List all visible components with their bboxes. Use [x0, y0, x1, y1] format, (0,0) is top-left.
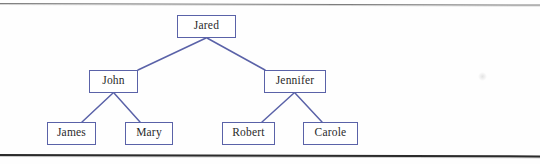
tree-edge-john-to-mary	[114, 93, 140, 122]
tree-node-robert[interactable]: Robert	[222, 122, 275, 145]
tree-node-label: John	[102, 75, 125, 88]
scan-speck	[478, 72, 487, 81]
tree-node-label: Mary	[136, 127, 162, 140]
tree-edge-jared-to-jennifer	[207, 38, 265, 70]
tree-node-carole[interactable]: Carole	[303, 122, 358, 145]
tree-node-label: Robert	[232, 127, 265, 140]
figure-canvas: JaredJohnJenniferJamesMaryRobertCarole	[0, 0, 540, 164]
tree-node-label: Jared	[194, 20, 219, 33]
tree-edge-john-to-james	[82, 93, 113, 122]
tree-node-label: Carole	[315, 127, 347, 140]
tree-node-jennifer[interactable]: Jennifer	[264, 70, 326, 93]
tree-edge-jennifer-to-robert	[262, 93, 294, 122]
tree-node-label: James	[57, 127, 86, 140]
tree-node-james[interactable]: James	[47, 122, 96, 145]
tree-node-jared[interactable]: Jared	[177, 15, 236, 38]
tree-node-john[interactable]: John	[89, 70, 138, 93]
tree-edge-jared-to-john	[138, 38, 206, 70]
tree-node-label: Jennifer	[276, 75, 315, 88]
tree-node-mary[interactable]: Mary	[125, 122, 173, 145]
tree-edge-jennifer-to-carole	[295, 93, 322, 122]
